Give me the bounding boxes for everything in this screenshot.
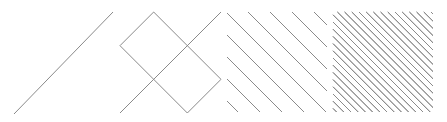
hatch-line <box>424 12 433 21</box>
hatch-line <box>227 13 326 112</box>
hatch-line <box>333 22 423 112</box>
hatch-line <box>373 12 433 72</box>
hatch-line <box>292 12 327 47</box>
hatch-line <box>431 12 433 14</box>
hatch-line <box>417 12 433 28</box>
hatch-line <box>120 12 154 46</box>
hatch-line <box>333 80 365 112</box>
hatch-line <box>227 101 238 112</box>
hatch-line <box>366 12 433 79</box>
hatch-line <box>333 36 409 112</box>
panel-fine-lattice <box>333 12 433 112</box>
panel-medium-lattice <box>227 12 327 112</box>
panel-coarse-lattice <box>120 12 221 113</box>
hatch-line <box>187 79 221 113</box>
hatch-diagram <box>0 0 447 122</box>
hatch-line <box>227 79 260 112</box>
hatch-line <box>388 12 433 57</box>
hatch-line <box>333 44 401 112</box>
hatch-line <box>227 35 304 112</box>
hatch-line <box>333 108 337 112</box>
hatch-line <box>345 12 433 100</box>
hatch-line <box>270 12 327 69</box>
hatch-line <box>359 12 433 86</box>
hatch-line <box>14 12 113 114</box>
panel-single-diagonal <box>14 12 113 114</box>
hatch-line <box>333 65 380 112</box>
hatch-line <box>409 12 433 36</box>
hatch-line <box>333 58 387 112</box>
hatch-line <box>120 12 221 113</box>
hatch-line <box>333 94 351 112</box>
hatch-line <box>227 57 282 112</box>
hatch-line <box>333 15 430 112</box>
hatch-line <box>314 12 327 25</box>
hatch-line <box>333 87 358 112</box>
hatch-line <box>248 12 327 91</box>
hatch-line <box>395 12 433 50</box>
hatch-line <box>337 12 433 108</box>
